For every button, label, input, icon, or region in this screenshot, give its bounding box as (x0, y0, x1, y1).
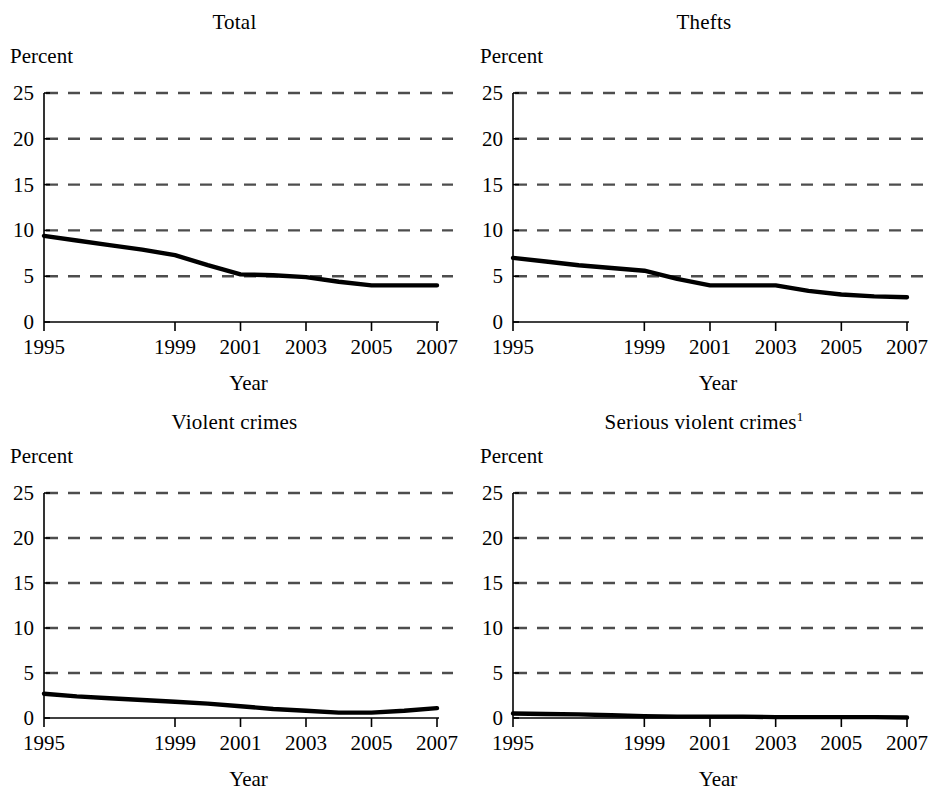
x-tick-label-2001: 2001 (220, 731, 262, 755)
x-axis-label: Year (229, 767, 268, 791)
x-tick-label-2005: 2005 (820, 335, 862, 359)
x-axis-label: Year (229, 371, 268, 395)
x-tick-label-1995: 1995 (492, 731, 534, 755)
x-tick-label-2001: 2001 (689, 335, 731, 359)
x-tick-label-1995: 1995 (23, 731, 65, 755)
x-tick-label-2005: 2005 (351, 731, 393, 755)
y-tick-label-25: 25 (482, 481, 503, 505)
y-tick-label-5: 5 (24, 264, 35, 288)
panel-serious-violent-crimes: Serious violent crimes1 Percent 05101520… (469, 400, 939, 796)
y-tick-label-15: 15 (13, 173, 34, 197)
panel-total: Total Percent 05101520251995199920012003… (0, 0, 469, 400)
panel-thefts: Thefts Percent 0510152025199519992001200… (469, 0, 939, 400)
chart-canvas-violent-crimes: 0510152025199519992001200320052007Year (0, 400, 469, 796)
x-tick-label-2005: 2005 (820, 731, 862, 755)
y-tick-label-25: 25 (482, 81, 503, 105)
y-tick-label-0: 0 (24, 310, 35, 334)
chart-grid: Total Percent 05101520251995199920012003… (0, 0, 939, 796)
chart-canvas-serious-violent-crimes: 0510152025199519992001200320052007Year (469, 400, 939, 796)
y-tick-label-10: 10 (482, 218, 503, 242)
x-tick-label-2001: 2001 (689, 731, 731, 755)
data-line-series (513, 714, 907, 718)
x-axis-label: Year (699, 767, 738, 791)
x-tick-label-2007: 2007 (886, 335, 928, 359)
y-tick-label-25: 25 (13, 481, 34, 505)
panel-violent-crimes: Violent crimes Percent 05101520251995199… (0, 400, 469, 796)
y-tick-label-10: 10 (13, 218, 34, 242)
x-tick-label-2003: 2003 (285, 731, 327, 755)
x-tick-label-2003: 2003 (285, 335, 327, 359)
chart-canvas-thefts: 0510152025199519992001200320052007Year (469, 0, 939, 400)
y-tick-label-0: 0 (493, 310, 504, 334)
x-tick-label-1999: 1999 (154, 335, 196, 359)
data-line-series (513, 258, 907, 297)
y-tick-label-15: 15 (482, 173, 503, 197)
y-tick-label-0: 0 (24, 706, 35, 730)
x-axis-label: Year (699, 371, 738, 395)
y-tick-label-5: 5 (24, 661, 35, 685)
y-tick-label-20: 20 (13, 127, 34, 151)
x-tick-label-2007: 2007 (416, 335, 458, 359)
x-tick-label-2007: 2007 (886, 731, 928, 755)
x-tick-label-1995: 1995 (492, 335, 534, 359)
y-tick-label-20: 20 (482, 526, 503, 550)
y-tick-label-10: 10 (482, 616, 503, 640)
x-tick-label-2003: 2003 (755, 335, 797, 359)
x-tick-label-1995: 1995 (23, 335, 65, 359)
x-tick-label-2005: 2005 (351, 335, 393, 359)
y-tick-label-15: 15 (482, 571, 503, 595)
x-tick-label-1999: 1999 (623, 335, 665, 359)
data-line-series (44, 236, 437, 285)
y-tick-label-5: 5 (493, 264, 504, 288)
y-tick-label-15: 15 (13, 571, 34, 595)
y-tick-label-25: 25 (13, 81, 34, 105)
y-tick-label-20: 20 (482, 127, 503, 151)
x-tick-label-2007: 2007 (416, 731, 458, 755)
x-tick-label-1999: 1999 (154, 731, 196, 755)
chart-canvas-total: 0510152025199519992001200320052007Year (0, 0, 469, 400)
x-tick-label-2003: 2003 (755, 731, 797, 755)
x-tick-label-2001: 2001 (220, 335, 262, 359)
y-tick-label-10: 10 (13, 616, 34, 640)
x-tick-label-1999: 1999 (623, 731, 665, 755)
y-tick-label-5: 5 (493, 661, 504, 685)
y-tick-label-0: 0 (493, 706, 504, 730)
y-tick-label-20: 20 (13, 526, 34, 550)
data-line-series (44, 694, 437, 713)
